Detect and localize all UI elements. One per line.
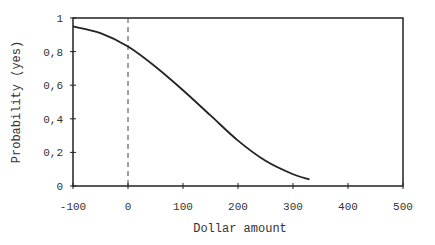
x-tick-label: -100	[60, 201, 86, 213]
y-tick-label: 0	[56, 181, 63, 193]
y-tick-label: 0,4	[43, 114, 63, 126]
y-tick-label: 0,2	[43, 147, 63, 159]
y-tick-label: 1	[56, 13, 63, 25]
x-tick-label: 300	[283, 201, 303, 213]
y-axis-label: Probability (yes)	[10, 41, 24, 163]
probability-chart: -1000100200300400500 00,20,40,60,81 Doll…	[0, 0, 435, 245]
x-axis-ticks: -1000100200300400500	[60, 183, 413, 213]
y-tick-label: 0,8	[43, 47, 63, 59]
probability-curve	[73, 26, 310, 179]
x-tick-label: 100	[173, 201, 193, 213]
x-tick-label: 500	[393, 201, 413, 213]
y-tick-label: 0,6	[43, 80, 63, 92]
series-line	[73, 26, 310, 179]
x-tick-label: 400	[338, 201, 358, 213]
x-tick-label: 0	[125, 201, 132, 213]
y-axis-ticks: 00,20,40,60,81	[43, 13, 76, 193]
x-tick-label: 200	[228, 201, 248, 213]
x-axis-label: Dollar amount	[193, 222, 287, 236]
